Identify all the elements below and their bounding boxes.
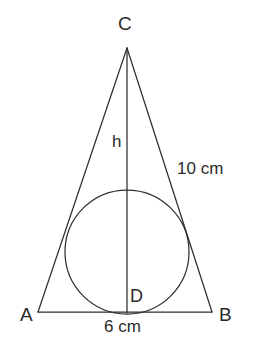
vertex-label-c: C <box>118 14 132 33</box>
triangle-side-cb <box>127 48 212 312</box>
altitude-label-h: h <box>112 133 121 150</box>
triangle-side-ac <box>38 48 127 312</box>
vertex-label-b: B <box>219 305 232 324</box>
geometry-diagram: C A B D h 10 cm 6 cm <box>0 0 253 356</box>
side-length-label-10cm: 10 cm <box>177 160 223 177</box>
triangle-circle-svg <box>0 0 253 356</box>
vertex-label-d: D <box>130 287 143 305</box>
base-length-label-6cm: 6 cm <box>104 318 141 335</box>
vertex-label-a: A <box>20 305 33 324</box>
